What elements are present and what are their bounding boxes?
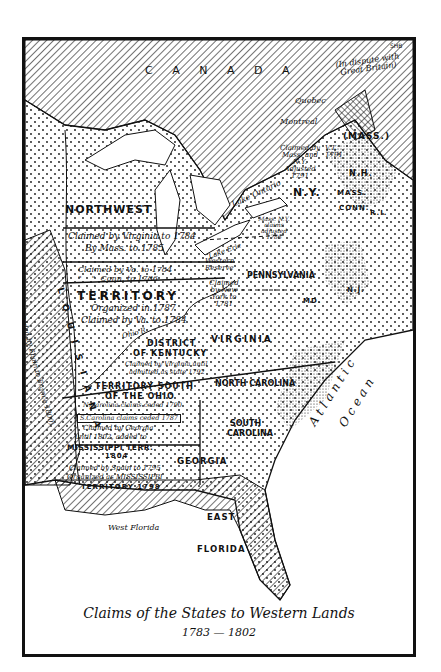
label-south-ohio-1: TERRITORY SOUTH — [95, 383, 194, 391]
label-georgia: GEORGIA — [177, 457, 227, 466]
label-conn: CONN. — [339, 205, 369, 212]
label-mass: MASS. — [337, 190, 367, 197]
label-pennsylvania: PENNSYLVANIA — [247, 272, 315, 280]
label-claim-va-conn-1: Claimed by Va. to 1784 — [78, 266, 172, 274]
label-georgia-claim-4: 1804 — [105, 453, 128, 460]
map-title: Claims of the States to Western Lands — [25, 605, 413, 621]
label-md: MD. — [303, 298, 321, 305]
label-georgia-claim-3: MISSISSIPPI TERR. — [67, 444, 153, 452]
artist-signature: SHB — [390, 43, 402, 49]
label-kentucky-4: admitted as state 1792 — [129, 369, 205, 376]
label-georgia-claim-2: until 1802, added to — [75, 434, 147, 441]
label-south-carolina-1: SOUTH — [230, 420, 261, 428]
label-northwest: NORTHWEST — [65, 204, 152, 215]
label-ny: N.Y. — [293, 187, 321, 198]
label-canada: C A N A D A — [145, 65, 297, 76]
label-claim-va-mass-2: By Mass. to 1785 — [85, 244, 164, 253]
label-quebec: Quebec — [295, 97, 326, 105]
label-south-carolina-2: CAROLINA — [227, 430, 273, 438]
label-claimed-va-1784: Claimed by Va. to 1784 — [81, 316, 187, 325]
label-nh: N.H. — [349, 170, 372, 178]
label-kentucky-2: OF KENTUCKY — [133, 350, 207, 358]
label-spain-claim-2: Organized as MISSISSIPPI — [67, 474, 163, 481]
label-kentucky-3: Claimed by Virginia until — [125, 361, 208, 368]
label-western-reserve: Western Reserve — [205, 258, 241, 272]
label-mass-maine: (MASS.) — [343, 132, 390, 141]
label-claimed-new-york: Claimed by New York to 1781 — [205, 280, 243, 308]
label-east-florida-1: EAST — [207, 513, 235, 522]
label-south-ohio-2: OF THE OHIO — [105, 393, 175, 401]
label-vt: V.T. 1791 — [325, 145, 343, 159]
label-west-florida: West Florida — [108, 524, 159, 532]
label-organized-1787: Organized in 1787 — [91, 304, 176, 313]
label-north-carolina: NORTH CAROLINA — [215, 380, 295, 388]
label-territory: TERRITORY — [77, 290, 179, 302]
label-east-florida-2: FLORIDA — [197, 545, 246, 554]
label-ri: R.I. — [370, 210, 387, 217]
label-spain-claim-1: Claimed by Spain to 1795 — [69, 465, 161, 472]
label-kentucky-1: DISTRICT — [147, 340, 196, 348]
label-nj: N.J. — [347, 287, 365, 294]
label-montreal: Montreal — [280, 118, 317, 126]
label-spain-claim-3: TERRITORY 1798 — [81, 484, 161, 491]
label-claim-va-conn-2: " " Conn. to 1786 — [78, 275, 158, 283]
label-claim-va-mass-1: Claimed by Virginia to 1784 — [68, 232, 196, 241]
map-years: 1783 — 1802 — [25, 626, 413, 639]
label-mass-ny-claims: Mass. N.Y. claims adjusted 1786 — [255, 216, 293, 240]
label-claimed-mass-ny: Claimed by Mass. and N.Y. Adjusted 1791 — [279, 145, 321, 180]
map-frame: C A N A D A SHB (In dispute with Great B… — [22, 37, 416, 657]
label-virginia: VIRGINIA — [211, 335, 273, 344]
